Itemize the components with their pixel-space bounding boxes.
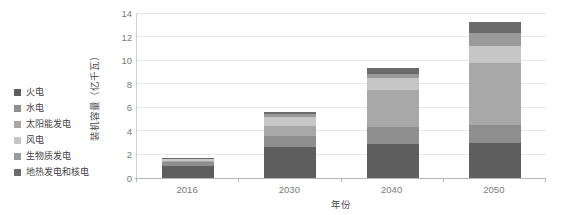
bar-segment[interactable]: [367, 144, 419, 178]
y-axis-tick-label: 0: [110, 173, 132, 184]
chart-figure: 火电 水电 太阳能发电 风电 生物质发电 地热发电和核电 装机容量（亿千瓦） 0…: [0, 0, 561, 215]
bar-segment[interactable]: [264, 126, 316, 137]
legend-swatch-icon: [14, 89, 21, 96]
bar-stack[interactable]: [367, 68, 419, 178]
legend-item-label: 风电: [26, 132, 44, 148]
bar-segment[interactable]: [367, 78, 419, 90]
x-axis-tick-label: 2030: [254, 184, 324, 195]
legend-item-label: 地热发电和核电: [26, 164, 89, 180]
bar-segment[interactable]: [264, 136, 316, 147]
y-axis-tick-label: 4: [110, 125, 132, 136]
x-axis-tick-mark: [238, 178, 239, 182]
x-axis-title: 年份: [136, 197, 545, 211]
legend-swatch-icon: [14, 105, 21, 112]
x-axis-tick-mark: [341, 178, 342, 182]
legend-swatch-icon: [14, 121, 21, 128]
bar-segment[interactable]: [162, 166, 214, 178]
bar-segment[interactable]: [469, 63, 521, 125]
bar-segment[interactable]: [469, 125, 521, 143]
x-axis-tick-label: 2016: [152, 184, 222, 195]
y-axis-tick-label: 10: [110, 55, 132, 66]
y-axis-tick-label: 6: [110, 102, 132, 113]
legend-item-label: 太阳能发电: [26, 116, 71, 132]
legend-item-label: 火电: [26, 84, 44, 100]
x-axis-tick-mark: [443, 178, 444, 182]
legend-swatch-icon: [14, 137, 21, 144]
bar-stack[interactable]: [264, 112, 316, 178]
legend-item-label: 水电: [26, 100, 44, 116]
x-axis-tick-mark: [136, 178, 137, 182]
x-axis-tick-label: 2050: [459, 184, 529, 195]
bar-segment[interactable]: [367, 127, 419, 144]
y-axis-tick-label: 12: [110, 31, 132, 42]
x-axis-tick-label: 2040: [357, 184, 427, 195]
bar-segment[interactable]: [469, 22, 521, 33]
bar-segment[interactable]: [469, 46, 521, 63]
bar-segment[interactable]: [264, 117, 316, 126]
legend-swatch-icon: [14, 153, 21, 160]
grid-line: [137, 13, 546, 14]
legend-item-label: 生物质发电: [26, 148, 71, 164]
bar-stack[interactable]: [469, 22, 521, 178]
bar-segment[interactable]: [264, 147, 316, 178]
x-axis-tick-mark: [545, 178, 546, 182]
bar-segment[interactable]: [469, 33, 521, 46]
plot-area: [136, 13, 546, 179]
bar-segment[interactable]: [367, 90, 419, 128]
y-axis-tick-label: 14: [110, 8, 132, 19]
y-axis-tick-label: 2: [110, 149, 132, 160]
y-axis-ticks: 02468101214: [108, 13, 132, 178]
y-axis-title: 装机容量（亿千瓦）: [88, 13, 102, 178]
bar-stack[interactable]: [162, 158, 214, 178]
y-axis-tick-label: 8: [110, 78, 132, 89]
legend-swatch-icon: [14, 169, 21, 176]
bar-segment[interactable]: [469, 143, 521, 178]
